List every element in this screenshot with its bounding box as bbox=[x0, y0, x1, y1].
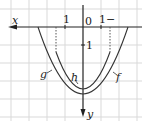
origin-label: 0 bbox=[85, 16, 92, 27]
y-axis-label: y bbox=[87, 109, 93, 120]
coordinate-diagram: x 1 0 1− 1 g h f y bbox=[0, 0, 142, 121]
curve-label-h: h bbox=[71, 72, 78, 83]
curve-label-g: g bbox=[40, 69, 47, 80]
grid bbox=[0, 0, 142, 121]
x-tick-label-left: 1 bbox=[63, 14, 70, 25]
curve-label-f: f bbox=[116, 72, 120, 83]
diagram-canvas bbox=[0, 0, 142, 121]
x-tick-label-right: 1− bbox=[99, 14, 115, 25]
y-axis-arrow-icon bbox=[81, 109, 86, 117]
y-tick-label: 1 bbox=[86, 40, 93, 51]
x-axis-label: x bbox=[12, 15, 18, 26]
